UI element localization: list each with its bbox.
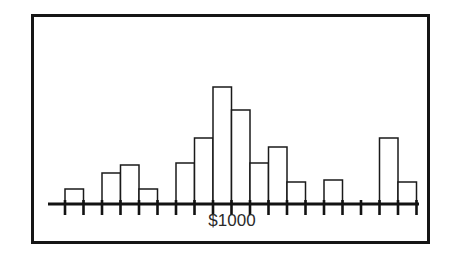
figure-border: [31, 14, 430, 244]
histogram-figure: $1000: [0, 0, 458, 258]
